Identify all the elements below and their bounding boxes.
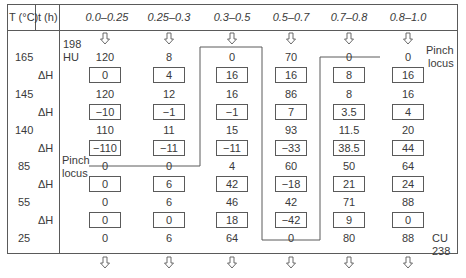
delta-h-box: −110 (89, 140, 121, 156)
delta-h-label: ΔH (38, 69, 53, 81)
delta-h-label: ΔH (38, 178, 53, 190)
delta-h-box: 0 (89, 212, 121, 228)
delta-h-box: 0 (89, 176, 121, 192)
interval-header-2: 0.3–0.5 (212, 11, 252, 23)
delta-h-label: ΔH (38, 214, 53, 226)
cascade-value: 70 (271, 51, 311, 63)
cascade-value: 0 (271, 232, 311, 244)
cascade-value: 50 (329, 160, 369, 172)
temperature-55: 55 (18, 196, 30, 208)
cascade-value: 64 (212, 232, 252, 244)
cascade-value: 60 (271, 160, 311, 172)
cascade-value: 6 (149, 232, 189, 244)
cascade-value: 12 (149, 88, 189, 100)
delta-h-label: ΔH (38, 106, 53, 118)
delta-h-box: 9 (333, 212, 365, 228)
cascade-value: 88 (388, 196, 428, 208)
delta-h-box: 0 (89, 67, 121, 83)
delta-h-box: 4 (153, 67, 185, 83)
cascade-value: 20 (388, 124, 428, 136)
delta-h-box: 16 (216, 67, 248, 83)
delta-h-box: 16 (392, 67, 424, 83)
pinch-locus-label-right-2: locus (428, 57, 454, 69)
hot-utility-label: HU (63, 51, 79, 63)
time-header: t (h) (38, 11, 58, 23)
cascade-value: 120 (85, 88, 125, 100)
cascade-value: 11 (149, 124, 189, 136)
cascade-value: 0 (85, 196, 125, 208)
cascade-value: 93 (271, 124, 311, 136)
cascade-value: 8 (329, 88, 369, 100)
delta-h-box: 0 (153, 212, 185, 228)
temperature-85: 85 (18, 160, 30, 172)
cascade-value: 16 (212, 88, 252, 100)
delta-h-box: −33 (275, 140, 307, 156)
cascade-value: 16 (388, 88, 428, 100)
delta-h-box: 21 (333, 176, 365, 192)
interval-header-0: 0.0–0.25 (85, 11, 129, 23)
interval-header-4: 0.7–0.8 (329, 11, 369, 23)
delta-h-box: 42 (216, 176, 248, 192)
cold-utility-value: 238 (432, 245, 450, 257)
delta-h-box: −1 (216, 104, 248, 120)
delta-h-box: 4 (392, 104, 424, 120)
temperature-header: T (°C) (9, 11, 38, 23)
interval-header-5: 0.8–1.0 (388, 11, 428, 23)
delta-h-box: −1 (153, 104, 185, 120)
time-cascade-diagram: T (°C) t (h) 0.0–0.25 0.25–0.3 0.3–0.5 0… (0, 0, 466, 278)
delta-h-box: −18 (275, 176, 307, 192)
cold-utility-label: CU (432, 232, 448, 244)
pinch-locus-label-left-2: locus (62, 167, 88, 179)
delta-h-box: −11 (153, 140, 185, 156)
interval-header-1: 0.25–0.3 (146, 11, 192, 23)
cascade-value: 0 (212, 51, 252, 63)
temperature-140: 140 (15, 124, 33, 136)
interval-header-3: 0.5–0.7 (271, 11, 311, 23)
cascade-value: 15 (212, 124, 252, 136)
delta-h-box: 0 (392, 212, 424, 228)
cascade-value: 8 (149, 51, 189, 63)
cascade-value: 0 (149, 160, 189, 172)
delta-h-box: −42 (275, 212, 307, 228)
temperature-145: 145 (15, 88, 33, 100)
cascade-value: 120 (85, 51, 125, 63)
cascade-value: 11.5 (329, 124, 369, 136)
delta-h-box: 8 (333, 67, 365, 83)
delta-h-box: 16 (275, 67, 307, 83)
cascade-value: 0 (85, 160, 125, 172)
delta-h-box: 38.5 (333, 140, 365, 156)
cascade-value: 4 (212, 160, 252, 172)
cascade-value: 42 (271, 196, 311, 208)
delta-h-box: 18 (216, 212, 248, 228)
cascade-value: 6 (149, 196, 189, 208)
hot-utility-value: 198 (63, 38, 81, 50)
pinch-locus-label-right: Pinch (426, 44, 454, 56)
cascade-value: 0 (329, 51, 369, 63)
cascade-value: 110 (85, 124, 125, 136)
delta-h-box: 24 (392, 176, 424, 192)
cascade-value: 64 (388, 160, 428, 172)
cascade-value: 86 (271, 88, 311, 100)
cascade-value: 0 (388, 51, 428, 63)
cascade-value: 71 (329, 196, 369, 208)
cascade-value: 88 (388, 232, 428, 244)
temperature-165: 165 (15, 51, 33, 63)
delta-h-box: −11 (216, 140, 248, 156)
delta-h-label: ΔH (38, 142, 53, 154)
delta-h-box: −10 (89, 104, 121, 120)
cascade-value: 0 (85, 232, 125, 244)
delta-h-box: 3.5 (333, 104, 365, 120)
cascade-value: 46 (212, 196, 252, 208)
delta-h-box: 44 (392, 140, 424, 156)
delta-h-box: 6 (153, 176, 185, 192)
cascade-value: 80 (329, 232, 369, 244)
temperature-25: 25 (18, 232, 30, 244)
delta-h-box: 7 (275, 104, 307, 120)
